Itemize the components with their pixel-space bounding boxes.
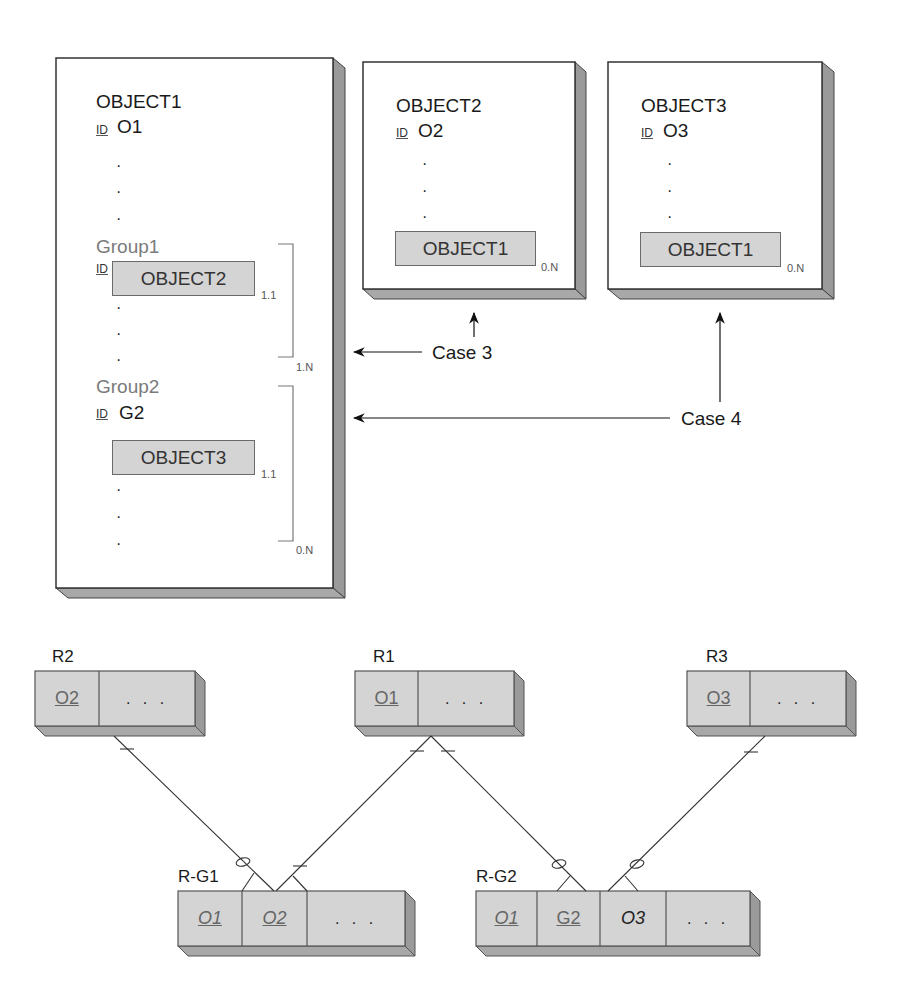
ellipsis-dot: · xyxy=(422,156,427,172)
rg2-o3-cell: O3 xyxy=(600,891,666,946)
object3-id-value: O3 xyxy=(663,121,688,140)
rg2-other-cell: . . . xyxy=(666,891,750,946)
r3-other-cell: . . . xyxy=(750,671,846,726)
object3-embedded-object1: OBJECT1 xyxy=(640,232,781,267)
diagram-canvas xyxy=(0,0,910,995)
group2-id-tag: ID xyxy=(96,408,108,420)
ellipsis-dot: · xyxy=(116,158,121,174)
rg1-o1-cell: O1 xyxy=(178,891,242,946)
object3-embedded-cardinality: 0.N xyxy=(787,263,804,274)
r1-key-cell: O1 xyxy=(355,671,418,726)
ellipsis-dot: · xyxy=(116,482,121,498)
group1-label: Group1 xyxy=(96,237,159,256)
rg2-o1-cell: O1 xyxy=(476,891,537,946)
object3-title: OBJECT3 xyxy=(641,96,727,115)
ellipsis-dot: · xyxy=(116,184,121,200)
ellipsis-dot: · xyxy=(116,300,121,316)
relation-rg2-label: R-G2 xyxy=(476,868,517,885)
ellipsis-dot: · xyxy=(116,211,121,227)
group1-embedded-cardinality: 1.1 xyxy=(261,290,276,301)
group1-embedded-object2: OBJECT2 xyxy=(112,261,255,296)
object1-title: OBJECT1 xyxy=(96,92,182,111)
object1-id-value: O1 xyxy=(117,117,142,136)
relation-r1-label: R1 xyxy=(373,648,395,665)
r3-key-cell: O3 xyxy=(687,671,750,726)
group2-embedded-cardinality: 1.1 xyxy=(261,469,276,480)
ellipsis-dot: · xyxy=(116,509,121,525)
ellipsis-dot: · xyxy=(116,352,121,368)
object2-embedded-cardinality: 0.N xyxy=(541,262,558,273)
object2-embedded-object1: OBJECT1 xyxy=(395,231,536,266)
relation-r3-label: R3 xyxy=(706,648,728,665)
object1-id-tag: ID xyxy=(96,124,108,136)
ellipsis-dot: · xyxy=(422,209,427,225)
object1-frame xyxy=(56,58,345,598)
rg2-g2-cell: G2 xyxy=(537,891,600,946)
group2-id-value: G2 xyxy=(119,403,144,422)
object3-id-tag: ID xyxy=(641,127,653,139)
object2-id-value: O2 xyxy=(418,121,443,140)
relation-rg1-label: R-G1 xyxy=(178,868,219,885)
r2-other-cell: . . . xyxy=(99,671,195,726)
case4-label: Case 4 xyxy=(681,409,741,428)
group2-embedded-object3: OBJECT3 xyxy=(112,440,255,475)
rg1-o2-cell: O2 xyxy=(242,891,307,946)
object2-title: OBJECT2 xyxy=(396,96,482,115)
ellipsis-dot: · xyxy=(667,209,672,225)
ellipsis-dot: · xyxy=(116,326,121,342)
object2-id-tag: ID xyxy=(396,127,408,139)
relation-r2-label: R2 xyxy=(52,648,74,665)
group2-cardinality: 0.N xyxy=(296,545,313,556)
case3-label: Case 3 xyxy=(432,343,492,362)
ellipsis-dot: · xyxy=(667,183,672,199)
group2-label: Group2 xyxy=(96,377,159,396)
r2-key-cell: O2 xyxy=(35,671,99,726)
ellipsis-dot: · xyxy=(422,183,427,199)
r1-other-cell: . . . xyxy=(418,671,514,726)
group1-cardinality: 1.N xyxy=(296,362,313,373)
ellipsis-dot: · xyxy=(667,156,672,172)
rg1-other-cell: . . . xyxy=(307,891,405,946)
group1-id-tag: ID xyxy=(96,263,108,275)
ellipsis-dot: · xyxy=(116,536,121,552)
